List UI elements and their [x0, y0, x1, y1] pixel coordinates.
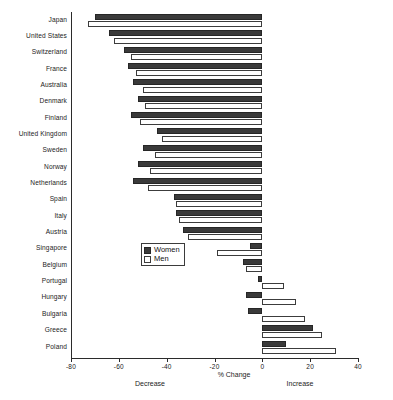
bar-men-finland: [140, 119, 262, 125]
bar-women-belgium: [243, 259, 262, 265]
legend-swatch-women: [144, 247, 151, 254]
bar-men-spain: [176, 201, 262, 207]
legend-label-women: Women: [154, 246, 180, 254]
bar-rows: JapanUnited StatesSwitzerlandFranceAustr…: [0, 0, 393, 400]
bar-men-italy: [179, 217, 263, 223]
bar-women-united-states: [109, 30, 262, 36]
bar-men-switzerland: [131, 54, 263, 60]
bar-women-japan: [95, 14, 262, 20]
legend-item-women: Women: [144, 246, 180, 254]
category-label-portugal: Portugal: [42, 277, 67, 284]
bar-men-hungary: [262, 299, 295, 305]
bar-men-united-states: [114, 38, 262, 44]
category-label-italy: Italy: [54, 212, 67, 219]
bar-women-austria: [183, 227, 262, 233]
category-label-japan: Japan: [49, 16, 67, 23]
bar-women-portugal: [258, 276, 263, 282]
bar-men-japan: [88, 21, 263, 27]
decrease-caption: Decrease: [135, 380, 165, 387]
category-label-bulgaria: Bulgaria: [42, 310, 67, 317]
category-label-denmark: Denmark: [40, 97, 67, 104]
category-label-greece: Greece: [45, 326, 67, 333]
bar-men-denmark: [145, 103, 262, 109]
bar-women-bulgaria: [248, 308, 262, 314]
chart-legend: Women Men: [141, 243, 185, 266]
bar-women-sweden: [143, 145, 263, 151]
bar-women-norway: [138, 161, 262, 167]
bar-men-portugal: [262, 283, 284, 289]
category-label-australia: Australia: [40, 81, 67, 88]
bar-men-belgium: [246, 266, 263, 272]
category-label-netherlands: Netherlands: [30, 179, 67, 186]
category-label-poland: Poland: [46, 343, 67, 350]
category-label-finland: Finland: [45, 114, 67, 121]
category-label-hungary: Hungary: [41, 293, 67, 300]
bar-women-denmark: [138, 96, 262, 102]
bar-women-italy: [176, 210, 262, 216]
bar-men-singapore: [217, 250, 262, 256]
bar-men-netherlands: [148, 185, 263, 191]
category-label-spain: Spain: [50, 195, 67, 202]
legend-swatch-men: [144, 256, 151, 263]
bar-men-united-kingdom: [162, 136, 262, 142]
category-label-switzerland: Switzerland: [32, 48, 67, 55]
legend-label-men: Men: [154, 255, 169, 263]
chart-container: -80-60-40-2002040 JapanUnited StatesSwit…: [0, 0, 393, 400]
bar-women-netherlands: [133, 178, 262, 184]
category-label-belgium: Belgium: [42, 261, 67, 268]
category-label-united-kingdom: United Kingdom: [19, 130, 67, 137]
bar-men-norway: [150, 168, 262, 174]
bar-men-greece: [262, 332, 322, 338]
x-axis-label: % Change: [218, 371, 251, 378]
category-label-austria: Austria: [46, 228, 67, 235]
bar-men-sweden: [155, 152, 263, 158]
bar-women-hungary: [246, 292, 263, 298]
bar-women-poland: [262, 341, 286, 347]
category-label-united-states: United States: [26, 32, 67, 39]
bar-women-singapore: [250, 243, 262, 249]
bar-women-australia: [133, 79, 262, 85]
increase-caption: Increase: [287, 380, 314, 387]
bar-women-united-kingdom: [157, 128, 262, 134]
bar-men-bulgaria: [262, 316, 305, 322]
category-label-norway: Norway: [44, 163, 67, 170]
bar-women-greece: [262, 325, 312, 331]
bar-women-france: [128, 63, 262, 69]
legend-item-men: Men: [144, 255, 180, 263]
bar-women-spain: [174, 194, 262, 200]
category-label-singapore: Singapore: [36, 244, 67, 251]
bar-men-poland: [262, 348, 336, 354]
bar-men-australia: [143, 87, 263, 93]
bar-men-austria: [188, 234, 262, 240]
category-label-sweden: Sweden: [43, 146, 67, 153]
category-label-france: France: [46, 65, 67, 72]
bar-men-france: [136, 70, 263, 76]
bar-women-switzerland: [124, 47, 263, 53]
bar-women-finland: [131, 112, 263, 118]
